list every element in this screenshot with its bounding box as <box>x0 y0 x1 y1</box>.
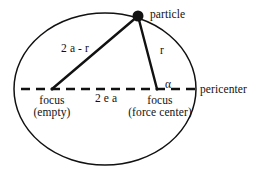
focus-force-center-dot <box>155 87 158 90</box>
segment-2a-minus-r-label: 2 a - r <box>61 43 89 55</box>
focus-force-center-label: focus (force center) <box>128 95 192 119</box>
focus-force-center-label-line2: (force center) <box>128 107 192 119</box>
focus-empty-label-line2: (empty) <box>33 107 70 119</box>
particle-label: particle <box>150 9 185 21</box>
particle-dot <box>133 11 144 22</box>
angle-alpha-label: α <box>165 79 171 91</box>
segment-r <box>138 16 157 89</box>
focus-empty-label: focus (empty) <box>33 95 70 119</box>
ellipse-diagram: particle pericenter 2 a - r r α 2 e a fo… <box>0 0 269 180</box>
focal-separation-label: 2 e a <box>95 93 117 105</box>
segment-r-label: r <box>160 45 164 57</box>
focus-empty-dot <box>50 87 53 90</box>
pericenter-label: pericenter <box>200 84 247 96</box>
